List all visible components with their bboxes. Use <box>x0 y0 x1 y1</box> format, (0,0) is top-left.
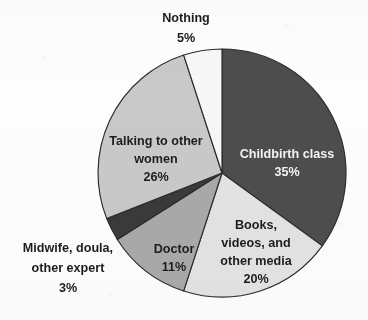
pie-label-childbirth-class-name: Childbirth class <box>240 147 334 161</box>
pie-label-nothing-value: 5% <box>177 31 195 45</box>
pie-label-childbirth-class-value: 35% <box>274 165 299 179</box>
pie-label-midwife-value: 3% <box>59 281 77 295</box>
pie-label-books-value: 20% <box>243 272 268 286</box>
pie-label-books-line1: Books, <box>235 218 277 232</box>
pie-chart-svg: Childbirth class 35% Books, videos, and … <box>0 0 368 320</box>
pie-label-nothing: Nothing 5% <box>162 11 210 45</box>
pie-label-books-line2: videos, and <box>221 236 290 250</box>
pie-label-midwife-doula-other-expert: Midwife, doula, other expert 3% <box>23 241 113 295</box>
pie-label-talking-line1: Talking to other <box>109 134 203 148</box>
pie-label-midwife-line1: Midwife, doula, <box>23 241 113 255</box>
pie-label-doctor-value: 11% <box>162 260 187 274</box>
pie-label-talking-value: 26% <box>143 170 168 184</box>
pie-label-nothing-name: Nothing <box>162 11 210 25</box>
pie-label-midwife-line2: other expert <box>32 261 106 275</box>
pie-label-talking-line2: women <box>133 152 177 166</box>
pie-chart-figure: Childbirth class 35% Books, videos, and … <box>0 0 368 320</box>
pie-label-books-line3: other media <box>220 254 292 268</box>
pie-label-doctor-name: Doctor <box>154 242 195 256</box>
